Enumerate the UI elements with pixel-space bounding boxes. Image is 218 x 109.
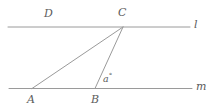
line-label-m: m [196,81,206,92]
geometry-figure: D C A B l m a° [0,0,218,109]
point-label-A: A [27,94,35,105]
point-label-D: D [44,8,53,19]
point-label-B: B [91,94,99,105]
angle-label-a: a° [103,73,112,84]
degree-symbol: ° [109,72,113,80]
line-label-l: l [194,19,198,30]
point-label-C: C [118,7,126,18]
